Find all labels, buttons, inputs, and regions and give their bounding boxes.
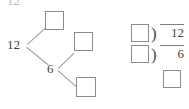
tree-answer-box-bottom[interactable]	[76, 77, 96, 97]
division-divisor-box-1[interactable]	[131, 24, 149, 42]
worksheet-figure: 12 12 6 ) 12 ) 6	[0, 0, 189, 109]
final-answer-box[interactable]	[163, 70, 181, 88]
division-bracket-icon-2: )	[151, 46, 157, 63]
tree-answer-box-top[interactable]	[45, 11, 64, 30]
division-divisor-box-2[interactable]	[131, 45, 149, 63]
division-bracket-icon-1: )	[151, 25, 157, 42]
factor-tree-node-label: 6	[47, 62, 54, 75]
tree-branch-six-lower	[57, 70, 77, 87]
tree-branch-lower	[26, 47, 48, 65]
tree-branch-upper	[27, 27, 46, 44]
cropped-top-label: 12	[7, 0, 20, 7]
tree-answer-box-middle[interactable]	[74, 32, 93, 51]
division-dividend-2: 6	[160, 47, 184, 60]
division-dividend-1: 12	[160, 26, 184, 39]
factor-tree-root-label: 12	[7, 38, 20, 51]
tree-branch-six-upper	[58, 53, 75, 69]
